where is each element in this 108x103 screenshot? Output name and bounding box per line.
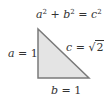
pythagorean-equation: a2 + b2 = c2 [36, 9, 102, 20]
side-c-equals: = [72, 41, 88, 54]
eq-equals: = [75, 8, 91, 21]
eq-plus: + [47, 8, 63, 21]
side-b-value: 1 [74, 84, 81, 97]
side-a-value: 1 [31, 47, 38, 60]
eq-c-exponent: 2 [97, 8, 101, 16]
side-a-equals: = [15, 47, 31, 60]
side-a-label: a = 1 [8, 48, 38, 59]
side-b-variable: b [51, 84, 58, 97]
side-c-radicand: 2 [95, 40, 104, 54]
side-b-label: b = 1 [51, 85, 81, 96]
hypotenuse-c-label: c = √2 [66, 42, 104, 53]
side-b-equals: = [58, 84, 74, 97]
pythagorean-diagram: a2 + b2 = c2 a = 1 c = √2 b = 1 [0, 0, 108, 103]
